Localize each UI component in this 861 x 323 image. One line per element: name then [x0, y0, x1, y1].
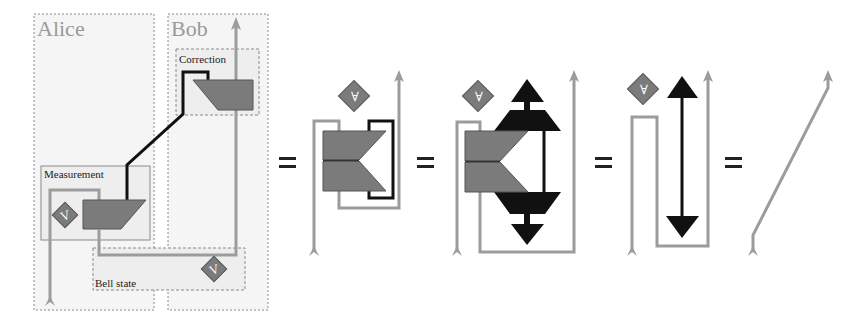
equals-sign-3 [595, 157, 612, 168]
bob-label: Bob [171, 16, 208, 41]
step2-bottom-trapezoid [494, 192, 561, 214]
step3-down-triangle [666, 216, 699, 238]
step1-lower-gate [323, 161, 386, 191]
panel-step-2: ∀ [452, 70, 579, 256]
equals-sign-1 [279, 157, 296, 168]
step1-input-tail-icon [309, 246, 319, 256]
panel-protocol: Alice Bob Correction Measurement Bell st… [34, 14, 268, 310]
identity-wire [753, 78, 828, 250]
step2-diamond-icon: ∀ [462, 80, 493, 111]
panel-identity [748, 70, 833, 256]
step2-input-tail-icon [452, 246, 462, 256]
step3-up-triangle [667, 76, 698, 98]
step2-bottom-triangle [511, 224, 544, 245]
step3-input-tail-icon [627, 246, 637, 256]
panel-step-1: ∀ [309, 70, 404, 256]
teleportation-diagram: Alice Bob Correction Measurement Bell st… [0, 0, 861, 323]
step2-lower-gate [465, 162, 528, 192]
identity-input-tail-icon [748, 246, 758, 256]
step1-upper-gate [323, 131, 386, 160]
step2-top-triangle [511, 79, 544, 102]
measurement-label: Measurement [44, 168, 104, 180]
step3-diamond-icon: ∀ [627, 73, 658, 104]
step1-diamond-glyph: ∀ [351, 89, 359, 104]
step2-top-trapezoid [494, 110, 561, 131]
equals-sign-4 [725, 157, 742, 168]
bell-state-label: Bell state [95, 277, 136, 289]
equals-sign-2 [417, 157, 434, 168]
step1-diamond-icon: ∀ [338, 80, 369, 111]
step2-diamond-glyph: ∀ [475, 89, 483, 104]
correction-label: Correction [179, 53, 227, 65]
step2-upper-gate [465, 131, 528, 161]
step3-diamond-glyph: ∀ [640, 82, 648, 97]
panel-step-3: ∀ [627, 70, 713, 256]
alice-label: Alice [37, 16, 85, 41]
